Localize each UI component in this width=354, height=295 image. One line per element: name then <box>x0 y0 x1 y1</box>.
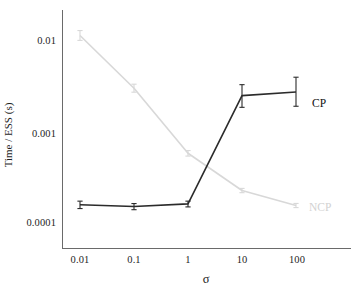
x-tick-label-0: 0.01 <box>71 254 90 265</box>
series-label-ncp: NCP <box>309 201 331 213</box>
series-label-cp: CP <box>312 97 326 109</box>
series-cp <box>77 77 298 209</box>
y-tick-label-2: 0.0001 <box>6 217 56 228</box>
chart-figure: 0.01 0.001 0.0001 0.01 0.1 1 10 100 Time… <box>0 0 354 295</box>
series-ncp <box>77 31 298 208</box>
y-tick-label-1: 0.001 <box>10 128 56 139</box>
x-tick-label-4: 100 <box>289 254 305 265</box>
y-tick-label-0: 0.01 <box>10 35 56 46</box>
x-tick-label-2: 1 <box>185 254 190 265</box>
series-line <box>80 36 296 206</box>
x-axis-title: σ <box>203 272 210 287</box>
series-line <box>80 92 296 206</box>
x-tick-label-1: 0.1 <box>127 254 140 265</box>
y-axis-title: Time / ESS (s) <box>2 103 14 168</box>
x-tick-label-3: 10 <box>237 254 248 265</box>
